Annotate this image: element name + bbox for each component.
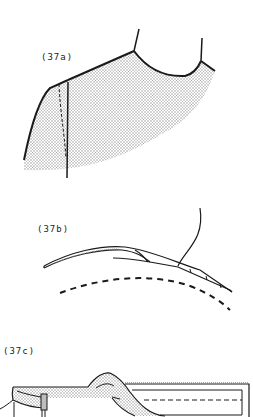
figure-37b: (37b): [0, 200, 253, 320]
figure-37a: (37a): [0, 0, 253, 200]
bodice-shoulder-illustration: [0, 0, 253, 200]
figure-37c: (37c): [0, 320, 253, 417]
waistband-facing-illustration: [0, 320, 253, 417]
seam-curve-illustration: [0, 200, 253, 320]
